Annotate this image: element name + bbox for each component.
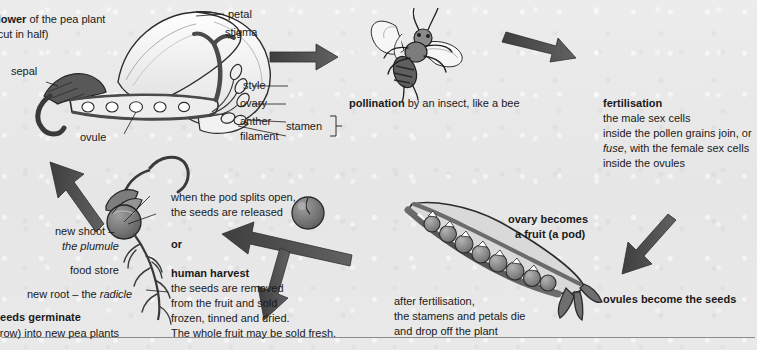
ovules-become-seeds: ovules become the seeds xyxy=(603,292,736,306)
human-harvest-line2: from the fruit and sold xyxy=(171,296,277,310)
fertilisation-heading: fertilisation xyxy=(603,96,662,110)
human-harvest-line3: frozen, tinned and dried. xyxy=(171,311,290,325)
bee-illustration xyxy=(371,8,462,102)
after-fertilisation-line3: and drop off the plant xyxy=(394,324,498,338)
after-fertilisation-line1: after fertilisation, xyxy=(394,294,475,308)
human-harvest-heading: human harvest xyxy=(171,266,249,280)
pollination-caption: pollination by an insect, like a bee xyxy=(349,96,520,110)
label-style: style xyxy=(243,79,266,91)
human-harvest-line4: The whole fruit may be sold fresh. xyxy=(171,326,336,340)
flower-title-rest: of the pea plant xyxy=(26,13,105,25)
label-ovule: ovule xyxy=(80,131,106,143)
new-shoot-line1: new shoot – xyxy=(55,224,114,238)
flower-title-bold: flower xyxy=(0,13,26,25)
fertilisation-line3-rest: , with the female sex cells xyxy=(624,142,749,154)
label-anther: anther xyxy=(240,115,271,127)
fertilisation-line4: inside the ovules xyxy=(603,156,685,170)
pod-splits-line1: when the pod splits open, xyxy=(171,190,296,204)
label-sepal: sepal xyxy=(11,65,37,77)
arrow-seeds-to-germination xyxy=(50,162,104,232)
flower-title: flower of the pea plant xyxy=(0,12,105,26)
fertilisation-line2: inside the pollen grains join, or xyxy=(603,126,752,140)
arrow-bee-to-fertilisation xyxy=(502,32,576,62)
flower-illustration xyxy=(38,12,342,136)
pod-splits-line2: the seeds are released xyxy=(171,205,283,219)
arrow-fertilisation-to-pod xyxy=(622,214,676,274)
fertilisation-line3: fuse, with the female sex cells xyxy=(603,141,749,155)
fertilisation-fuse-italic: fuse xyxy=(603,142,624,154)
fruit-heading-line1: ovary becomes xyxy=(508,212,588,226)
pollination-bold: pollination xyxy=(349,97,405,109)
flower-subtitle: (cut in half) xyxy=(0,27,48,41)
new-root-label: new root – the radicle xyxy=(27,287,132,301)
label-ovary: ovary xyxy=(240,97,267,109)
label-filament: filament xyxy=(240,130,279,142)
label-petal: petal xyxy=(228,8,252,20)
seeds-germinate-heading: seeds germinate xyxy=(0,310,81,324)
pea-seed-illustration xyxy=(292,197,324,229)
after-fertilisation-line2: the stamens and petals die xyxy=(394,309,525,323)
new-shoot-plumule: the plumule xyxy=(62,239,119,253)
seeds-germinate-subtext: (grow) into new pea plants xyxy=(0,326,119,340)
label-stigma: stigma xyxy=(225,26,257,38)
arrow-flower-to-bee xyxy=(270,44,338,70)
label-stamen: stamen xyxy=(286,120,322,132)
new-root-radicle-italic: radicle xyxy=(100,288,132,300)
diagram-page: flower of the pea plant (cut in half) pe… xyxy=(0,0,757,350)
food-store-label: food store xyxy=(70,263,119,277)
new-root-pre: new root – the xyxy=(27,288,100,300)
fertilisation-line1: the male sex cells xyxy=(603,111,690,125)
or-label: or xyxy=(171,237,182,251)
pollination-rest: by an insect, like a bee xyxy=(405,97,520,109)
fruit-heading-line2: a fruit (a pod) xyxy=(515,227,585,241)
human-harvest-line1: the seeds are removed xyxy=(171,281,284,295)
